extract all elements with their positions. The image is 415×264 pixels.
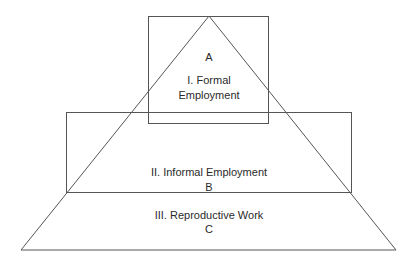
label-formal-line1: I. Formal [187,73,230,87]
label-formal-line2: Employment [178,88,239,102]
label-letter-c: C [205,222,213,236]
label-reproductive-work: III. Reproductive Work [155,208,264,222]
label-letter-a: A [205,50,212,64]
label-letter-b: B [205,180,212,194]
box-formal-employment [149,17,269,124]
label-informal-employment: II. Informal Employment [151,165,267,179]
